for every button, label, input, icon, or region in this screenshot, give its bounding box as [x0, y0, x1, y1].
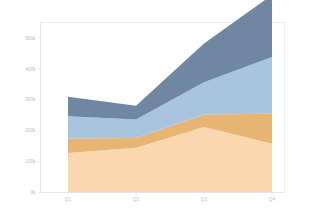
y-axis-tick-label: 400k	[25, 67, 36, 72]
x-axis-tick-label: Q1	[65, 197, 72, 202]
y-axis-tick-label: 200k	[25, 128, 36, 133]
y-axis-tick-label: 300k	[25, 97, 36, 102]
x-axis-tick-label: Q4	[269, 197, 276, 202]
y-axis-tick-label: 100k	[25, 159, 36, 164]
stacked-area-chart: 0k100k200k300k400k500k Q1Q2Q3Q4	[0, 0, 319, 221]
x-axis-tick-label: Q2	[133, 197, 140, 202]
y-axis-tick-label: 500k	[25, 36, 36, 41]
y-axis-tick-label: 0k	[30, 190, 36, 195]
x-axis-tick-label: Q3	[201, 197, 208, 202]
chart-canvas: 0k100k200k300k400k500k Q1Q2Q3Q4	[0, 0, 319, 221]
